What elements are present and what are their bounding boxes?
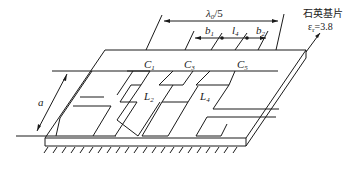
label-c5: C5 <box>237 58 248 72</box>
metamaterial-diagram: λ0/5 b1 l4 b2 a C1 C3 C5 L2 L4 石英基片 εr=3… <box>0 0 351 180</box>
svg-text:石英基片: 石英基片 <box>303 7 343 19</box>
label-l2: L2 <box>143 90 154 104</box>
svg-text:b2: b2 <box>256 24 266 38</box>
ladder-structure <box>56 14 284 136</box>
svg-text:εr=3.8: εr=3.8 <box>308 21 333 34</box>
dimension-b1-l4-b2: b1 l4 b2 <box>195 24 266 40</box>
svg-text:b1: b1 <box>205 24 214 38</box>
svg-text:a: a <box>38 96 44 108</box>
ground-hatching <box>44 147 237 153</box>
dimension-period: λ0/5 <box>164 7 278 23</box>
label-c3: C3 <box>184 58 195 72</box>
label-c1: C1 <box>144 58 155 72</box>
svg-text:λ0/5: λ0/5 <box>205 7 223 21</box>
dimension-a: a <box>37 74 67 131</box>
substrate-slab <box>45 50 306 146</box>
label-l4: L4 <box>199 90 210 104</box>
svg-text:l4: l4 <box>232 24 239 38</box>
substrate-label: 石英基片 εr=3.8 <box>303 7 343 52</box>
